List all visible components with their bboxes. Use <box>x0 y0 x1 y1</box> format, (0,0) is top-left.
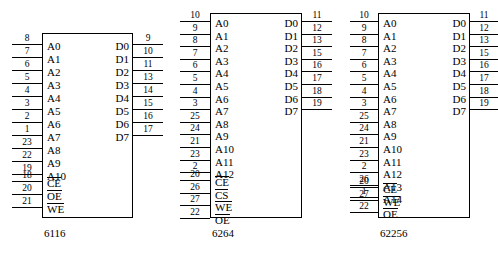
pin-number-62256-A6: 4 <box>350 87 378 96</box>
signal-label-6116-A7: A7 <box>47 132 60 143</box>
signal-label-6116-D0: D0 <box>111 41 129 52</box>
pin-number-6264-A6: 4 <box>180 87 210 96</box>
pin-number-6116-D2: 11 <box>133 60 163 69</box>
pin-number-6116-D4: 14 <box>133 86 163 95</box>
pin-number-62256-A10: 21 <box>350 137 378 146</box>
signal-label-62256-A8: A8 <box>383 119 396 130</box>
signal-label-6116-D6: D6 <box>111 119 129 130</box>
signal-label-6264-WE: WE <box>215 201 232 213</box>
pin-number-6264-A0: 10 <box>180 11 210 20</box>
pin-number-62256-D6: 18 <box>470 87 498 96</box>
pin-number-6116-D0: 9 <box>133 34 163 43</box>
signal-label-62256-D2: D2 <box>448 43 466 54</box>
signal-label-6116-A5: A5 <box>47 106 60 117</box>
lead-line-62256-OE <box>350 212 378 213</box>
pin-number-6264-A4: 6 <box>180 61 210 70</box>
lead-line-6116-D4 <box>133 96 163 97</box>
pin-number-62256-A5: 5 <box>350 74 378 83</box>
lead-line-6116-D3 <box>133 83 163 84</box>
signal-label-6116-CE: CE <box>47 177 61 189</box>
pin-number-6264-D2: 13 <box>302 36 332 45</box>
signal-label-6116-D7: D7 <box>111 132 129 143</box>
pin-number-6264-D0: 11 <box>302 11 332 20</box>
pin-number-6264-D5: 17 <box>302 74 332 83</box>
lead-line-6116-A1 <box>12 57 42 58</box>
pin-number-6116-A9: 22 <box>12 151 42 160</box>
signal-label-6116-A3: A3 <box>47 80 60 91</box>
pin-number-6116-A4: 4 <box>12 86 42 95</box>
signal-label-6116-A0: A0 <box>47 41 60 52</box>
signal-label-62256-CE: CE <box>383 183 397 195</box>
signal-label-6264-A10: A10 <box>215 144 234 155</box>
signal-label-6264-D7: D7 <box>280 106 298 117</box>
signal-label-62256-A4: A4 <box>383 68 396 79</box>
pin-number-62256-A0: 10 <box>350 11 378 20</box>
lead-line-6116-CE <box>12 181 42 182</box>
chip-name-6264: 6264 <box>212 228 234 239</box>
lead-line-6116-OE <box>12 194 42 195</box>
signal-label-6116-A1: A1 <box>47 54 60 65</box>
lead-line-62256-D7 <box>470 109 498 110</box>
lead-line-6264-CE <box>180 180 210 181</box>
signal-label-62256-D3: D3 <box>448 56 466 67</box>
lead-line-6264-D5 <box>302 84 332 85</box>
signal-label-62256-A0: A0 <box>383 18 396 29</box>
pin-number-6264-A3: 7 <box>180 49 210 58</box>
lead-line-62256-A0 <box>350 21 378 22</box>
pin-number-62256-A4: 6 <box>350 61 378 70</box>
pin-number-62256-A11: 23 <box>350 150 378 159</box>
pin-number-6116-D1: 10 <box>133 47 163 56</box>
signal-label-6264-D1: D1 <box>280 31 298 42</box>
lead-line-6116-A3 <box>12 83 42 84</box>
lead-line-6264-D0 <box>302 21 332 22</box>
pin-number-6116-CE: 18 <box>12 171 42 180</box>
lead-line-6116-D1 <box>133 57 163 58</box>
pin-number-62256-A12: 2 <box>350 162 378 171</box>
lead-line-6264-A0 <box>180 21 210 22</box>
lead-line-62256-A10 <box>350 147 378 148</box>
pin-number-6264-A11: 23 <box>180 150 210 159</box>
signal-label-6116-A6: A6 <box>47 119 60 130</box>
signal-label-6264-CS: CS <box>215 189 228 201</box>
signal-label-62256-WE: WE <box>383 196 400 208</box>
lead-line-6116-D6 <box>133 122 163 123</box>
lead-line-6116-A7 <box>12 135 42 136</box>
signal-label-62256-D5: D5 <box>448 81 466 92</box>
pin-number-62256-WE: 27 <box>350 190 378 199</box>
signal-label-62256-D0: D0 <box>448 18 466 29</box>
pin-number-6264-D3: 15 <box>302 49 332 58</box>
pin-number-6116-D3: 13 <box>133 73 163 82</box>
lead-line-62256-A5 <box>350 84 378 85</box>
lead-line-6264-D7 <box>302 109 332 110</box>
signal-label-6264-A6: A6 <box>215 94 228 105</box>
signal-label-62256-OE: OE <box>383 208 398 220</box>
chip-name-6116: 6116 <box>44 228 66 239</box>
pin-number-62256-A2: 8 <box>350 36 378 45</box>
lead-line-6116-A6 <box>12 122 42 123</box>
signal-label-62256-A7: A7 <box>383 106 396 117</box>
pin-number-6264-OE: 22 <box>180 208 210 217</box>
signal-label-6264-D6: D6 <box>280 94 298 105</box>
pin-number-6264-D6: 18 <box>302 87 332 96</box>
signal-label-6116-OE: OE <box>47 190 62 202</box>
lead-line-6116-A5 <box>12 109 42 110</box>
signal-label-62256-A2: A2 <box>383 43 396 54</box>
lead-line-62256-D0 <box>470 21 498 22</box>
signal-label-62256-D1: D1 <box>448 31 466 42</box>
pin-number-6116-OE: 20 <box>12 184 42 193</box>
pin-number-6116-A2: 6 <box>12 60 42 69</box>
signal-label-6116-D2: D2 <box>111 67 129 78</box>
signal-label-62256-A12: A12 <box>383 169 402 180</box>
lead-line-6116-WE <box>12 207 42 208</box>
signal-label-62256-A3: A3 <box>383 56 396 67</box>
lead-line-6264-A10 <box>180 147 210 148</box>
signal-label-6264-OE: OE <box>215 214 230 226</box>
lead-line-6116-A4 <box>12 96 42 97</box>
pin-number-62256-A7: 3 <box>350 99 378 108</box>
pin-number-62256-D3: 15 <box>470 49 498 58</box>
lead-line-6264-A5 <box>180 84 210 85</box>
signal-label-6264-A1: A1 <box>215 31 228 42</box>
signal-label-6116-A2: A2 <box>47 67 60 78</box>
lead-line-6116-A2 <box>12 70 42 71</box>
signal-label-6264-A9: A9 <box>215 131 228 142</box>
